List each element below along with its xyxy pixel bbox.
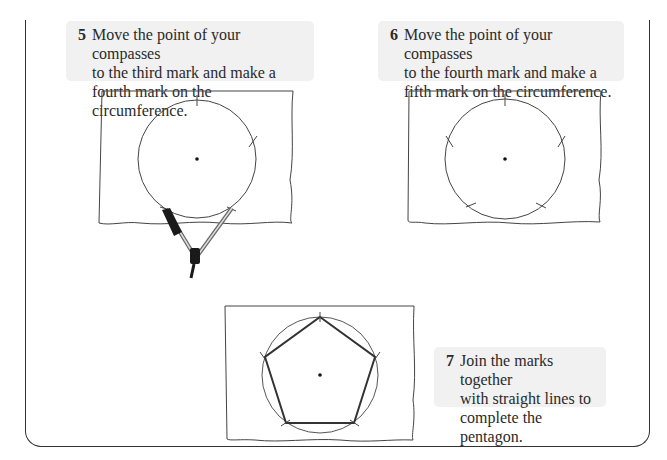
pentagon xyxy=(265,317,375,423)
step-5-instruction: 5 Move the point of your compasses to th… xyxy=(66,21,314,81)
step-7-figure xyxy=(220,300,430,460)
step-text: Join the marks together with straight li… xyxy=(444,351,596,446)
step-number: 5 xyxy=(78,25,86,44)
centre-point xyxy=(318,373,322,377)
step-number: 7 xyxy=(446,351,454,370)
step-6-figure xyxy=(370,80,610,240)
step-6-instruction: 6 Move the point of your compasses to th… xyxy=(378,21,624,81)
centre-point xyxy=(503,157,507,161)
centre-point xyxy=(195,157,199,161)
step-number: 6 xyxy=(390,25,398,44)
step-5-figure xyxy=(90,80,310,290)
step-7-instruction: 7 Join the marks together with straight … xyxy=(434,347,606,407)
